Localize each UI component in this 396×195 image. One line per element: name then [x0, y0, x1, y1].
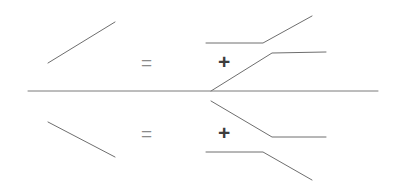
lhs-lower-slope-line [48, 122, 115, 157]
rhs-upper-term1-line [206, 16, 312, 43]
equals-sign-top: = [141, 53, 152, 72]
rhs-lower-term2-line [206, 152, 312, 180]
plus-sign-top: + [218, 51, 230, 72]
diagram-canvas: = + = + [0, 0, 396, 195]
lhs-upper-slope-line [48, 22, 115, 63]
plus-sign-bottom: + [218, 122, 230, 143]
equals-sign-bottom: = [141, 124, 152, 143]
diagram-svg [0, 0, 396, 195]
